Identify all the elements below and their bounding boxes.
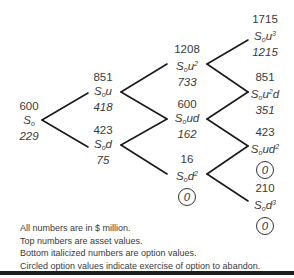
node-label: Sou2 (162, 57, 212, 77)
tree-node-d: 423 Sod 75 (78, 124, 128, 168)
asset-value: 600 (162, 98, 212, 112)
option-value: 162 (162, 128, 212, 142)
tree-node-dd: 16 Sod2 0 (162, 153, 212, 206)
node-label: Sou2d (240, 85, 290, 105)
asset-value: 600 (4, 100, 54, 114)
tree-node-uu: 1208 Sou2 733 (162, 43, 212, 90)
tree-node-udd: 423 Soud2 0 (240, 126, 290, 179)
tree-node-uud: 851 Sou2d 351 (240, 71, 290, 118)
note-asset-values: Top numbers are asset values. (20, 235, 260, 248)
note-option-values: Bottom italicized numbers are option val… (20, 247, 260, 260)
option-value: 351 (240, 104, 290, 118)
node-label: Sou (78, 85, 128, 102)
option-value-circled: 0 (256, 161, 274, 179)
tree-node-u: 851 Sou 418 (78, 71, 128, 115)
option-value-circled: 0 (178, 188, 196, 206)
node-label: So (4, 114, 54, 131)
asset-value: 1208 (162, 43, 212, 57)
diagram-notes: All numbers are in $ million. Top number… (20, 222, 260, 272)
asset-value: 1715 (240, 13, 290, 27)
node-label: Sod3 (240, 196, 290, 216)
asset-value: 423 (240, 126, 290, 140)
note-units: All numbers are in $ million. (20, 222, 260, 235)
tree-node-uuu: 1715 Sou3 1215 (240, 13, 290, 60)
node-label: Soud (162, 112, 212, 129)
asset-value: 210 (240, 182, 290, 196)
option-value: 1215 (240, 46, 290, 60)
option-value: 418 (78, 101, 128, 115)
node-label: Sod (78, 138, 128, 155)
node-label: Sou3 (240, 27, 290, 47)
option-value: 733 (162, 76, 212, 90)
tree-node-ud: 600 Soud 162 (162, 98, 212, 142)
asset-value: 851 (78, 71, 128, 85)
tree-node-root: 600 So 229 (4, 100, 54, 144)
option-value: 229 (4, 130, 54, 144)
option-value: 75 (78, 154, 128, 168)
asset-value: 423 (78, 124, 128, 138)
asset-value: 16 (162, 153, 212, 167)
bottom-rule-divider (0, 271, 294, 275)
node-label: Soud2 (240, 140, 290, 160)
node-label: Sod2 (162, 167, 212, 187)
asset-value: 851 (240, 71, 290, 85)
